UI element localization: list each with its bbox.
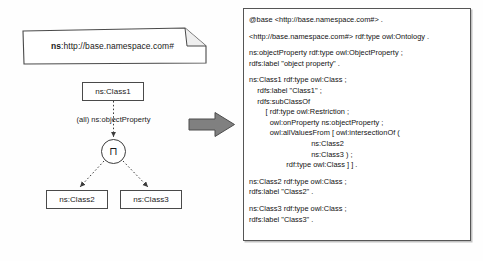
- node-class1: ns:Class1: [82, 82, 144, 101]
- code-line: ns:Class1 rdf:type owl:Class ;: [249, 75, 465, 86]
- code-line: @base <http://base.namespace.com#> .: [249, 15, 465, 26]
- code-line: ns:objectProperty rdf:type owl:ObjectPro…: [249, 48, 465, 59]
- code-line: rdfs:subClassOf: [249, 97, 465, 108]
- node-class3-label: ns:Class3: [133, 195, 169, 204]
- code-line: rdfs:label "Class2" .: [249, 187, 465, 198]
- edge-label-object-property: (all) ns:objectProperty: [36, 115, 191, 124]
- code-line: rdfs:label "object property" .: [249, 59, 465, 70]
- figure-canvas: ns: http://base.namespace.com# ns:Class1…: [0, 0, 483, 261]
- turtle-code-panel: @base <http://base.namespace.com#> . <ht…: [243, 8, 471, 241]
- node-class3: ns:Class3: [120, 190, 182, 209]
- node-class2: ns:Class2: [46, 190, 108, 209]
- code-line: <http://base.namespace.com#> rdf:type ow…: [249, 32, 465, 43]
- code-line: rdfs:label "Class1" ;: [249, 86, 465, 97]
- right-arrow-icon: [188, 111, 236, 138]
- code-line: [ rdf:type owl:Restriction ;: [249, 107, 465, 118]
- code-line: rdfs:label "Class3" .: [249, 215, 465, 226]
- node-class1-label: ns:Class1: [95, 87, 131, 96]
- code-line: ns:Class2 rdf:type owl:Class ;: [249, 177, 465, 188]
- intersection-symbol-icon: ⊓: [109, 146, 118, 157]
- code-line: owl:allValuesFrom [ owl:intersectionOf (: [249, 128, 465, 139]
- node-class2-label: ns:Class2: [59, 195, 95, 204]
- intersection-node: ⊓: [101, 139, 126, 164]
- transformation-arrow: [188, 111, 236, 138]
- code-line: ns:Class3 ) ;: [249, 150, 465, 161]
- turtle-code-lines: @base <http://base.namespace.com#> . <ht…: [249, 15, 465, 225]
- code-line: ns:Class2: [249, 139, 465, 150]
- code-line: rdf:type owl:Class ] ] .: [249, 160, 465, 171]
- edge-intersection-to-class3: [123, 161, 148, 187]
- edge-label-text: (all) ns:objectProperty: [76, 115, 150, 124]
- code-line: owl:onProperty ns:objectProperty ;: [249, 118, 465, 129]
- edge-intersection-to-class2: [80, 161, 104, 187]
- code-line: ns:Class3 rdf:type owl:Class ;: [249, 204, 465, 215]
